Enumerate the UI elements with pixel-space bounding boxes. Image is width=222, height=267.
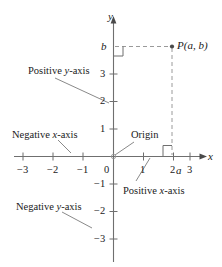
y-tick-label-3: 3 — [100, 69, 105, 80]
leader-negative-y-axis — [62, 212, 92, 228]
y-tick-label-1: 1 — [100, 124, 105, 135]
callout-positive-x-axis-prefix: Positive — [123, 185, 159, 196]
callout-origin: Origin — [131, 130, 158, 141]
callout-positive-y-axis: Positive y-axis — [28, 66, 90, 77]
point-p-label: P(a, b) — [177, 40, 208, 51]
callout-positive-x-axis: Positive x-axis — [123, 186, 185, 197]
y-coordinate-b-label: b — [101, 41, 107, 52]
callout-origin-text: Origin — [131, 129, 158, 140]
callout-positive-y-axis-prefix: Positive — [28, 65, 64, 76]
y-tick-label--2: −2 — [94, 206, 105, 217]
x-axis-label: x — [208, 151, 213, 162]
x-tick-label--2: −2 — [47, 165, 58, 176]
x-tick-label--1: −1 — [77, 165, 88, 176]
callout-negative-y-axis-suffix: -axis — [61, 201, 81, 212]
x-coordinate-a-label: a — [176, 165, 182, 176]
callout-negative-y-axis: Negative y-axis — [16, 202, 82, 213]
x-tick-label-3: 3 — [187, 165, 192, 176]
y-tick-label-2: 2 — [100, 96, 105, 107]
y-axis-label: y — [108, 11, 113, 22]
y-tick-label--1: −1 — [94, 179, 105, 190]
x-tick-label--3: −3 — [17, 165, 28, 176]
right-angle-marker-x — [163, 146, 172, 157]
callout-negative-x-axis-prefix: Negative — [12, 129, 53, 140]
callout-positive-y-axis-suffix: -axis — [69, 65, 89, 76]
leader-negative-x-axis — [58, 140, 71, 153]
callout-negative-y-axis-prefix: Negative — [16, 201, 57, 212]
x-axis-arrowhead — [200, 154, 208, 160]
callout-positive-x-axis-suffix: -axis — [164, 185, 184, 196]
callout-negative-x-axis: Negative x-axis — [12, 130, 78, 141]
right-angle-marker-y — [114, 47, 124, 57]
x-tick-label-1: 1 — [140, 165, 145, 176]
x-tick-label-0: 0 — [104, 165, 109, 176]
coordinate-plane-figure: y x −3 −2 −1 0 1 2 3 a 3 2 1 −1 −2 −3 b … — [0, 0, 222, 267]
point-p-marker — [170, 44, 174, 48]
callout-negative-x-axis-suffix: -axis — [57, 129, 77, 140]
x-tick-label-2: 2 — [170, 165, 175, 176]
y-tick-label--3: −3 — [94, 234, 105, 245]
leader-origin — [115, 142, 134, 155]
